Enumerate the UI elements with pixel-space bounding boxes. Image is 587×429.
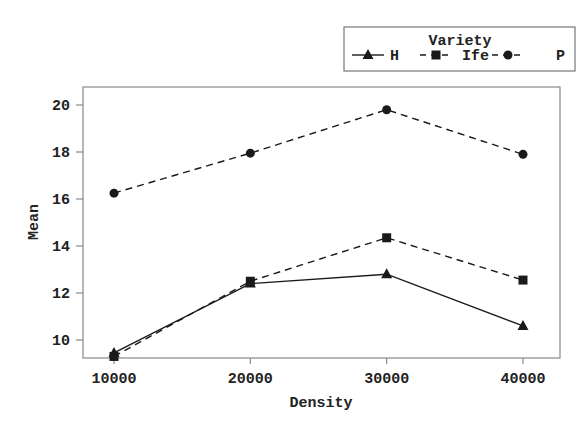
series-h [109,268,529,357]
series-layer [109,105,529,361]
series-ife [110,233,528,361]
data-point-triangle [381,268,392,278]
legend-label: Ife [462,48,489,65]
legend: Variety HIfeP [344,27,575,71]
data-point-circle [246,149,255,158]
legend-square-icon [432,51,441,60]
data-point-square [382,233,391,242]
x-axis-title: Density [289,395,352,412]
legend-label: H [390,48,399,65]
x-tick-label: 10000 [91,371,136,388]
x-tick-label: 30000 [364,371,409,388]
x-tick-label: 40000 [500,371,545,388]
x-tick-label: 20000 [228,371,273,388]
data-point-circle [110,189,119,198]
series-line [114,274,523,353]
y-tick-label: 18 [52,145,70,162]
y-tick-label: 10 [52,333,70,350]
y-tick-label: 20 [52,98,70,115]
legend-label: P [556,48,565,65]
data-point-circle [519,150,528,159]
y-axis: 101214161820 [52,98,83,350]
data-point-circle [382,105,391,114]
y-tick-label: 16 [52,192,70,209]
plot-frame [83,87,560,358]
series-line [114,110,523,193]
data-point-square [110,352,119,361]
y-tick-label: 12 [52,286,70,303]
y-tick-label: 14 [52,239,70,256]
data-point-square [519,276,528,285]
line-chart: Variety HIfeP 101214161820 1000020000300… [0,0,587,429]
y-axis-title: Mean [26,204,43,240]
legend-circle-icon [504,51,513,60]
series-line [114,238,523,357]
series-p [110,105,528,197]
x-axis: 10000200003000040000 [91,358,545,388]
data-point-square [246,277,255,286]
